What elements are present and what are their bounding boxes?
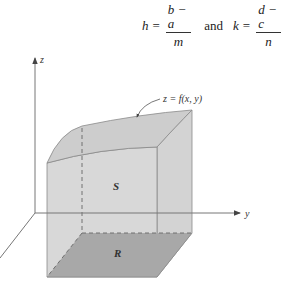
solid-over-region-diagram: z y z = f(x, y) S R <box>0 0 284 302</box>
y-axis-label: y <box>244 208 250 219</box>
x-axis <box>0 213 35 258</box>
solid-label: S <box>113 180 119 192</box>
surface-label: z = f(x, y) <box>162 93 203 105</box>
region-label: R <box>113 247 121 259</box>
z-axis-label: z <box>39 54 44 65</box>
